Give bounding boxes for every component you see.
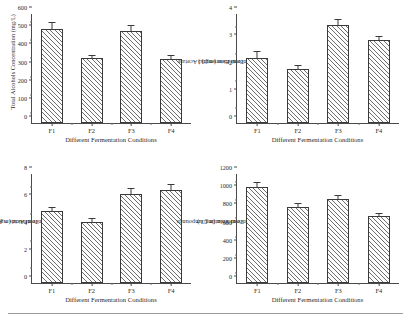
x-axis-tick-mark [51, 123, 52, 126]
bar-group [368, 174, 390, 283]
x-axis-tick-mark [378, 123, 379, 126]
x-axis-tick-f1: F1 [49, 283, 56, 294]
bar-f3[interactable] [120, 31, 142, 123]
chart-panel-total-volatiles: Total Volatile CompoundsConcentration (m… [205, 160, 411, 321]
bar-group [327, 14, 349, 123]
bar-f2[interactable] [81, 222, 103, 283]
x-axis-tick-label: F4 [375, 287, 382, 294]
x-axis-tick-mark [131, 283, 132, 286]
bar-group [120, 14, 142, 123]
y-axis-tick: 4 [229, 4, 237, 11]
error-bar-cap [88, 55, 95, 56]
x-axis-tick-mark [131, 123, 132, 126]
y-axis-tick: 0 [229, 273, 237, 280]
x-axis-minor-tick [277, 123, 278, 125]
x-axis-tick-f4: F4 [375, 123, 382, 134]
bar-f2[interactable] [287, 207, 309, 283]
x-axis-tick-mark [257, 283, 258, 286]
y-axis-tick-label: 100 [18, 94, 27, 101]
x-axis-tick-mark [297, 123, 298, 126]
y-axis-tick-label: 0 [229, 113, 232, 120]
y-axis-tick-label: 2 [229, 58, 232, 65]
x-axis-title-total-esters: Different Fermentation Conditions [236, 136, 399, 143]
y-axis-tick: 1 [229, 85, 237, 92]
bar-f4[interactable] [368, 40, 390, 123]
x-axis-title-total-volatiles: Different Fermentation Conditions [236, 296, 399, 303]
bar-group [160, 14, 182, 123]
bar-group [81, 174, 103, 283]
bar-f4[interactable] [160, 190, 182, 283]
error-bar-cap [48, 22, 55, 23]
bar-group [246, 174, 268, 283]
bar-f1[interactable] [246, 58, 268, 123]
y-axis-tick-label: 1000 [220, 182, 232, 189]
error-bar-cap [375, 213, 382, 214]
bar-f2[interactable] [81, 58, 103, 123]
y-axis-tick: 1200 [220, 164, 237, 171]
y-axis-tick: 0 [24, 113, 32, 120]
x-axis-tick-mark [171, 123, 172, 126]
y-axis-tick-label: 1200 [220, 164, 232, 171]
x-axis-tick-f2: F2 [88, 123, 95, 134]
y-axis-tick-label: 600 [223, 218, 232, 225]
x-axis-minor-tick [151, 283, 152, 285]
x-axis-minor-tick [358, 123, 359, 125]
bar-f1[interactable] [246, 187, 268, 283]
x-axis-tick-f3: F3 [335, 123, 342, 134]
y-axis-tick: 800 [223, 200, 237, 207]
y-axis-tick-label: 400 [18, 40, 27, 47]
y-axis-tick-label: 4 [24, 218, 27, 225]
y-axis-tick: 200 [18, 76, 32, 83]
error-bar-cap [168, 184, 175, 185]
x-axis-tick-label: F2 [294, 127, 301, 134]
x-axis-tick-label: F4 [375, 127, 382, 134]
bar-f2[interactable] [287, 69, 309, 124]
x-axis-tick-label: F1 [49, 127, 56, 134]
y-axis-tick: 600 [18, 4, 32, 11]
chart-panel-total-acids: Total Acids – Acetic AcidConcentration (… [0, 160, 205, 321]
x-axis-minor-tick [71, 283, 72, 285]
x-axis-title-total-acids: Different Fermentation Conditions [31, 296, 191, 303]
error-bar-cap [88, 218, 95, 219]
y-axis-tick: 400 [223, 236, 237, 243]
y-axis-tick: 3 [229, 31, 237, 38]
bar-series-total-acids [32, 174, 191, 283]
error-bar-cap [294, 203, 301, 204]
x-axis-tick-label: F1 [49, 287, 56, 294]
x-axis-minor-tick [71, 123, 72, 125]
bar-group [120, 174, 142, 283]
x-axis-minor-tick [358, 283, 359, 285]
bar-f3[interactable] [327, 25, 349, 123]
y-axis-tick: 100 [18, 94, 32, 101]
bar-group [287, 14, 309, 123]
x-axis-tick-mark [171, 283, 172, 286]
bar-f1[interactable] [41, 211, 63, 283]
bar-group [41, 174, 63, 283]
bar-f3[interactable] [327, 199, 349, 283]
x-axis-minor-tick [111, 123, 112, 125]
x-axis-tick-label: F4 [168, 287, 175, 294]
bar-group [246, 14, 268, 123]
bar-f4[interactable] [160, 59, 182, 123]
y-axis-tick-label: 600 [18, 4, 27, 11]
error-bar-cap [335, 19, 342, 20]
x-axis-tick-label: F3 [335, 287, 342, 294]
bar-series-total-alcohols [32, 14, 191, 123]
y-axis-tick: 4 [24, 218, 32, 225]
bar-f3[interactable] [120, 194, 142, 283]
x-axis-tick-f3: F3 [128, 123, 135, 134]
error-bar-cap [254, 182, 261, 183]
plot-area-total-volatiles: 020040060080010001200 F1F2F3F4 [236, 174, 399, 284]
x-axis-tick-f2: F2 [88, 283, 95, 294]
bar-f1[interactable] [41, 29, 63, 123]
y-axis-tick-label: 0 [24, 273, 27, 280]
chart-panel-total-esters: Total Esters-ethyl AcetateConcentration … [205, 0, 411, 160]
y-axis-tick: 0 [229, 113, 237, 120]
x-axis-tick-f3: F3 [335, 283, 342, 294]
x-axis-tick-label: F3 [128, 287, 135, 294]
bar-group [368, 14, 390, 123]
y-axis-tick-label: 800 [223, 200, 232, 207]
y-axis-tick-label: 0 [229, 273, 232, 280]
bar-f4[interactable] [368, 216, 390, 283]
error-bar-cap [335, 195, 342, 196]
